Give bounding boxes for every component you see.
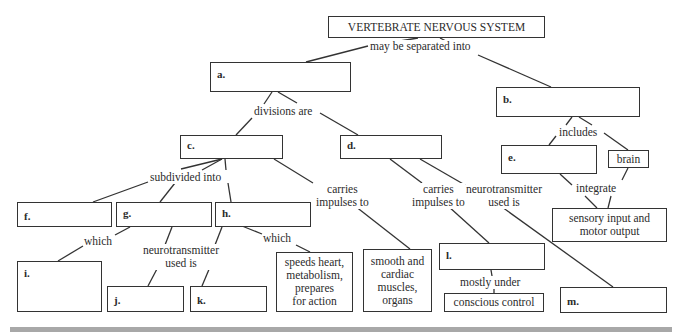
box-brain: brain (608, 150, 649, 168)
connector-mostly-under: mostly under (460, 276, 520, 289)
box-smooth-line1: smooth and (371, 255, 424, 268)
box-j[interactable]: j. (107, 286, 184, 312)
connector-gh-neurotransmitter: neurotransmitter used is (143, 244, 219, 270)
box-j-label: j. (114, 294, 120, 306)
connector-d-neuro-line2: used is (466, 196, 542, 209)
box-a-label: a. (217, 68, 225, 80)
box-k-label: k. (197, 294, 206, 306)
connector-integrate: integrate (576, 182, 616, 195)
box-sensory: sensory input and motor output (552, 208, 667, 242)
box-speeds-line1: speeds heart, (285, 256, 344, 269)
box-h-label: h. (222, 207, 231, 219)
connector-divisions-are: divisions are (254, 105, 312, 118)
box-i[interactable]: i. (17, 261, 102, 312)
box-h[interactable]: h. (215, 202, 311, 227)
box-l[interactable]: l. (439, 243, 545, 270)
connector-d-carries: carries impulses to (412, 183, 465, 209)
box-speeds-line4: for action (292, 295, 336, 308)
box-speeds-line3: prepares (295, 282, 334, 295)
connector-c-carries-line2: impulses to (316, 196, 369, 209)
box-g[interactable]: g. (116, 202, 212, 227)
box-c[interactable]: c. (180, 135, 283, 159)
box-smooth-cardiac: smooth and cardiac muscles, organs (363, 249, 432, 312)
box-speeds-heart: speeds heart, metabolism, prepares for a… (276, 252, 353, 312)
box-speeds-line2: metabolism, (286, 269, 343, 282)
connector-gh-neuro-line1: neurotransmitter (143, 244, 219, 257)
connector-d-neurotransmitter: neurotransmitter used is (466, 183, 542, 209)
box-l-label: l. (446, 249, 452, 261)
connector-g-which: which (84, 235, 112, 248)
box-k[interactable]: k. (190, 286, 267, 312)
box-b[interactable]: b. (496, 87, 640, 117)
box-conscious-control: conscious control (444, 293, 544, 312)
box-c-label: c. (187, 139, 195, 151)
box-conscious-text: conscious control (454, 296, 535, 309)
connector-may-be-separated: may be separated into (370, 40, 471, 53)
box-f[interactable]: f. (17, 202, 112, 227)
title-text: VERTEBRATE NERVOUS SYSTEM (348, 21, 525, 34)
box-m[interactable]: m. (560, 287, 667, 313)
box-g-label: g. (123, 207, 131, 219)
box-smooth-line3: muscles, (378, 281, 418, 294)
box-b-label: b. (503, 93, 512, 105)
connector-h-which: which (263, 232, 291, 245)
box-m-label: m. (567, 295, 579, 307)
connector-c-carries-line1: carries (316, 183, 369, 196)
box-brain-text: brain (617, 153, 641, 166)
connector-d-carries-line1: carries (412, 183, 465, 196)
connector-d-neuro-line1: neurotransmitter (466, 183, 542, 196)
box-d-label: d. (347, 139, 356, 151)
box-a[interactable]: a. (210, 62, 351, 92)
box-sensory-line2: motor output (580, 225, 640, 238)
box-i-label: i. (24, 267, 30, 279)
box-e[interactable]: e. (501, 145, 597, 174)
box-smooth-line4: organs (382, 294, 412, 307)
box-e-label: e. (508, 151, 516, 163)
title-box: VERTEBRATE NERVOUS SYSTEM (328, 16, 545, 38)
box-smooth-line2: cardiac (381, 268, 414, 281)
bottom-divider-bar (10, 327, 672, 332)
connector-gh-neuro-line2: used is (143, 257, 219, 270)
connector-includes: includes (559, 126, 597, 139)
connector-subdivided-into: subdivided into (150, 171, 221, 184)
connector-c-carries: carries impulses to (316, 183, 369, 209)
box-d[interactable]: d. (340, 135, 442, 159)
box-sensory-line1: sensory input and (569, 212, 650, 225)
connector-d-carries-line2: impulses to (412, 196, 465, 209)
box-f-label: f. (24, 210, 30, 222)
